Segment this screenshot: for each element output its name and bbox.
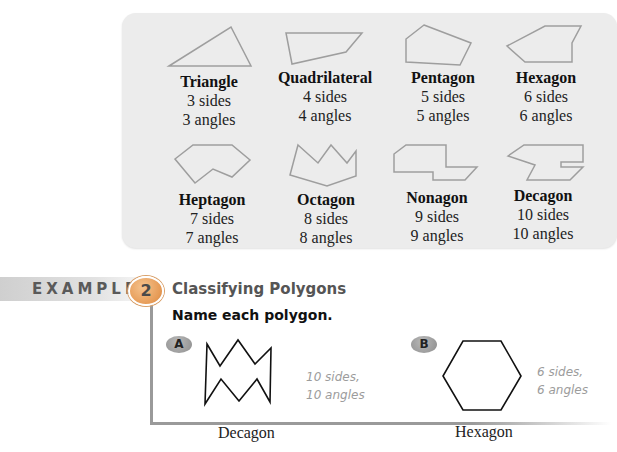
polygon-name: Quadrilateral (265, 68, 385, 87)
decagon-example-shape (190, 338, 290, 408)
polygon-angles: 6 angles (486, 106, 606, 125)
hexagon-example-shape (440, 338, 525, 413)
example-bracket-vertical (150, 302, 153, 425)
polygon-sides: 3 sides (149, 91, 269, 110)
polygon-card-heptagon: Heptagon 7 sides 7 angles (152, 190, 272, 247)
nonagon-shape (394, 145, 477, 180)
pentagon-shape (406, 25, 471, 65)
hexagon-shape (507, 26, 581, 62)
polygon-name: Hexagon (486, 68, 606, 87)
polygon-name: Nonagon (377, 188, 497, 207)
quadrilateral-shape (286, 33, 362, 64)
part-b-badge: B (411, 336, 437, 353)
polygon-name: Heptagon (152, 190, 272, 209)
part-a-note-sides: 10 sides, (306, 368, 365, 386)
example-number-badge: 2 (128, 276, 164, 306)
polygon-angles: 7 angles (152, 228, 272, 247)
example-prompt: Name each polygon. (172, 307, 333, 323)
example-title: Classifying Polygons (172, 280, 346, 298)
polygon-angles: 5 angles (383, 106, 503, 125)
polygon-card-pentagon: Pentagon 5 sides 5 angles (383, 68, 503, 125)
polygon-name: Pentagon (383, 68, 503, 87)
polygon-card-triangle: Triangle 3 sides 3 angles (149, 72, 269, 129)
polygon-sides: 5 sides (383, 87, 503, 106)
polygon-name: Octagon (266, 190, 386, 209)
polygon-card-hexagon: Hexagon 6 sides 6 angles (486, 68, 606, 125)
part-a-note-angles: 10 angles (306, 386, 365, 404)
polygon-card-octagon: Octagon 8 sides 8 angles (266, 190, 386, 247)
polygon-card-quadrilateral: Quadrilateral 4 sides 4 angles (265, 68, 385, 125)
polygon-sides: 10 sides (483, 205, 603, 224)
part-b-note-sides: 6 sides, (537, 363, 588, 381)
polygon-card-decagon: Decagon 10 sides 10 angles (483, 186, 603, 243)
polygon-angles: 4 angles (265, 106, 385, 125)
polygon-name: Triangle (149, 72, 269, 91)
polygon-angles: 8 angles (266, 228, 386, 247)
polygon-sides: 6 sides (486, 87, 606, 106)
part-a-badge: A (166, 336, 192, 353)
polygon-sides: 4 sides (265, 87, 385, 106)
polygon-angles: 3 angles (149, 110, 269, 129)
polygon-angles: 10 angles (483, 224, 603, 243)
heptagon-shape (175, 145, 250, 183)
polygon-sides: 8 sides (266, 209, 386, 228)
octagon-shape (290, 145, 356, 186)
part-b-note: 6 sides, 6 angles (537, 363, 588, 399)
polygon-name: Decagon (483, 186, 603, 205)
decagon-shape (508, 145, 583, 180)
part-a-answer: Decagon (218, 424, 275, 442)
part-a-note: 10 sides, 10 angles (306, 368, 365, 404)
triangle-shape (169, 27, 251, 66)
polygon-sides: 9 sides (377, 207, 497, 226)
example-label: EXAMPLE (32, 280, 139, 298)
part-b-note-angles: 6 angles (537, 381, 588, 399)
polygon-angles: 9 angles (377, 226, 497, 245)
part-b-answer: Hexagon (455, 423, 513, 441)
polygon-sides: 7 sides (152, 209, 272, 228)
polygon-card-nonagon: Nonagon 9 sides 9 angles (377, 188, 497, 245)
